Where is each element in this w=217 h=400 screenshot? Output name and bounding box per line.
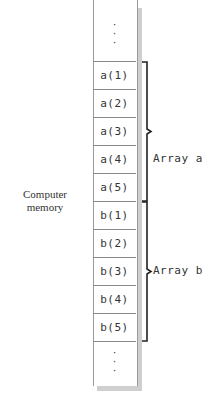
memory-cell: a(5) — [93, 173, 136, 201]
memory-label-line1: Computer — [8, 188, 82, 201]
memory-cell: b(3) — [93, 257, 136, 285]
brace-array-b-icon — [141, 201, 153, 342]
memory-cell: a(3) — [93, 117, 136, 145]
memory-cell: a(4) — [93, 145, 136, 173]
memory-cell: b(4) — [93, 285, 136, 313]
array-b-label: Array b — [153, 264, 203, 277]
memory-cell: a(2) — [93, 89, 136, 117]
array-a-label: Array a — [153, 152, 203, 165]
memory-label: Computer memory — [8, 188, 82, 214]
memory-cell: a(1) — [93, 61, 136, 89]
top-ellipsis: · · · — [93, 20, 136, 47]
memory-cell: b(5) — [93, 313, 136, 342]
memory-column-shadow-bottom — [97, 386, 142, 391]
memory-cell: b(2) — [93, 229, 136, 257]
memory-label-line2: memory — [8, 201, 82, 214]
dot: · — [93, 366, 136, 375]
memory-cell: b(1) — [93, 201, 136, 229]
bottom-ellipsis: · · · — [93, 348, 136, 375]
dot: · — [93, 38, 136, 47]
brace-array-a-icon — [141, 61, 153, 202]
